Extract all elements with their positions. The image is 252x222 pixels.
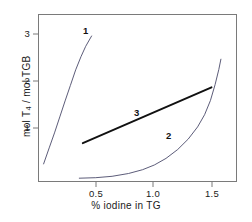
xtick-label-1point5: 1.5: [192, 188, 232, 199]
x-axis-ticks: [96, 182, 212, 188]
y-axis-title-suffix: / mol TGB: [21, 55, 32, 106]
y-axis-title-prefix: mol T: [21, 111, 32, 137]
y-axis-title-subscript: 4: [24, 106, 33, 110]
x-axis-title: % iodine in TG: [0, 200, 252, 211]
y-axis-title: mol T4 / mol TGB: [21, 16, 33, 176]
curve-label-3: 3: [134, 107, 139, 118]
xtick-label-1point0: 1.0: [133, 188, 173, 199]
chart-figure: 3 2 1 0.5 1.0 1.5 1 2 3 % iodine in TG m…: [0, 0, 252, 222]
plot-frame: [39, 15, 237, 182]
curve-label-2: 2: [166, 130, 171, 141]
xtick-label-0point5: 0.5: [76, 188, 116, 199]
y-axis-ticks: [33, 34, 39, 128]
curve-label-1: 1: [83, 25, 88, 36]
